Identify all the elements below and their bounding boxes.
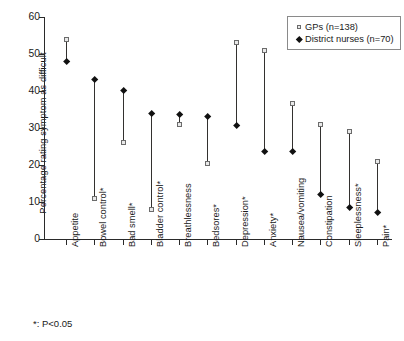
x-tick [264,240,265,245]
x-tick [349,240,350,245]
range-connector [320,124,321,194]
legend-label-gps: GPs (n=138) [305,22,358,32]
gp-data-point [375,159,380,164]
district-nurse-data-point [374,209,382,217]
x-tick [123,240,124,245]
range-connector [123,91,124,143]
district-nurse-data-point [63,58,71,66]
district-nurse-data-point [148,109,156,117]
gp-data-point [290,101,295,106]
x-tick-label: Constipation [324,195,334,247]
y-tick-label: 40 [0,86,40,96]
gp-data-point [318,122,323,127]
gp-data-point [92,196,97,201]
x-tick [66,240,67,245]
legend-item-gps: GPs (n=138) [293,21,394,33]
y-axis-line [44,17,45,240]
legend-item-district-nurses: District nurses (n=70) [293,33,394,45]
x-tick-label: Breathlessness [183,183,193,247]
y-tick-label: 60 [0,12,40,22]
range-connector [377,161,378,213]
gp-data-point [262,48,267,53]
gp-data-point [347,129,352,134]
x-tick-label: Pain* [381,225,391,247]
y-tick-label: 10 [0,197,40,207]
y-tick-label: 50 [0,49,40,59]
x-tick [207,240,208,245]
range-connector [236,43,237,126]
x-tick-label: Bad smell* [127,203,137,247]
x-tick [94,240,95,245]
legend-label-district-nurses: District nurses (n=70) [305,34,394,44]
district-nurse-data-point [176,111,184,119]
x-tick-label: Sleeplessness* [353,183,363,247]
x-tick [377,240,378,245]
range-connector [349,132,350,208]
gp-data-point [149,207,154,212]
chart-figure: Percentage rating symptom as difficult 0… [0,0,404,341]
district-nurse-data-point [204,113,212,121]
y-tick-label: 20 [0,160,40,170]
x-tick-label: Bladder control* [155,181,165,247]
x-tick-label: Anxiety* [268,213,278,247]
x-tick [179,240,180,245]
gp-data-point [205,161,210,166]
district-nurse-data-point [120,87,128,95]
district-nurse-data-point [91,76,99,84]
x-tick-label: Nausea/vomiting [296,178,306,247]
x-tick [151,240,152,245]
x-tick [236,240,237,245]
y-tick-label: 0 [0,234,40,244]
range-connector [264,50,265,152]
open-square-icon [293,25,305,30]
gp-data-point [64,37,69,42]
x-tick [320,240,321,245]
gp-data-point [121,140,126,145]
y-tick-label: 30 [0,123,40,133]
significance-footnote: *: P<0.05 [33,318,72,329]
x-tick [292,240,293,245]
filled-diamond-icon [293,37,305,42]
x-tick-label: Bowel control* [98,188,108,247]
district-nurse-data-point [233,122,241,130]
x-tick-label: Bedsores* [211,204,221,247]
x-tick-label: Appetite [70,213,80,247]
district-nurse-data-point [289,148,297,156]
range-connector [207,117,208,163]
gp-data-point [177,122,182,127]
chart-legend: GPs (n=138) District nurses (n=70) [287,16,401,50]
range-connector [292,104,293,152]
gp-data-point [234,40,239,45]
range-connector [151,113,152,209]
range-connector [94,80,95,198]
district-nurse-data-point [261,148,269,156]
x-tick-label: Depression* [240,196,250,247]
